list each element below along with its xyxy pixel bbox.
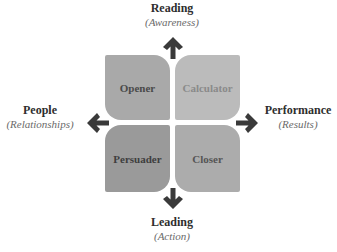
quadrant-calculator-label: Calculator (182, 82, 232, 94)
quadrant-persuader: Persuader (105, 125, 170, 192)
arrow-right-icon (235, 112, 259, 134)
bottom-axis-label: Leading (Action) (122, 216, 222, 242)
quadrant-closer: Closer (175, 125, 240, 192)
right-axis-subtitle: (Results) (259, 118, 337, 131)
quadrant-persuader-label: Persuader (113, 153, 161, 165)
left-axis-subtitle: (Relationships) (0, 118, 80, 131)
left-axis-label: People (Relationships) (0, 104, 80, 130)
quadrant-opener: Opener (105, 55, 170, 120)
quadrant-calculator: Calculator (175, 55, 240, 120)
arrow-down-icon (162, 188, 184, 210)
top-axis-subtitle: (Awareness) (122, 16, 222, 29)
top-axis-title: Reading (122, 2, 222, 16)
quadrant-opener-label: Opener (120, 82, 155, 94)
arrow-left-icon (86, 112, 110, 134)
left-axis-title: People (0, 104, 80, 118)
top-axis-label: Reading (Awareness) (122, 2, 222, 28)
bottom-axis-title: Leading (122, 216, 222, 230)
bottom-axis-subtitle: (Action) (122, 230, 222, 243)
right-axis-label: Performance (Results) (259, 104, 337, 130)
arrow-up-icon (162, 36, 184, 60)
quadrant-closer-label: Closer (192, 153, 223, 165)
right-axis-title: Performance (259, 104, 337, 118)
